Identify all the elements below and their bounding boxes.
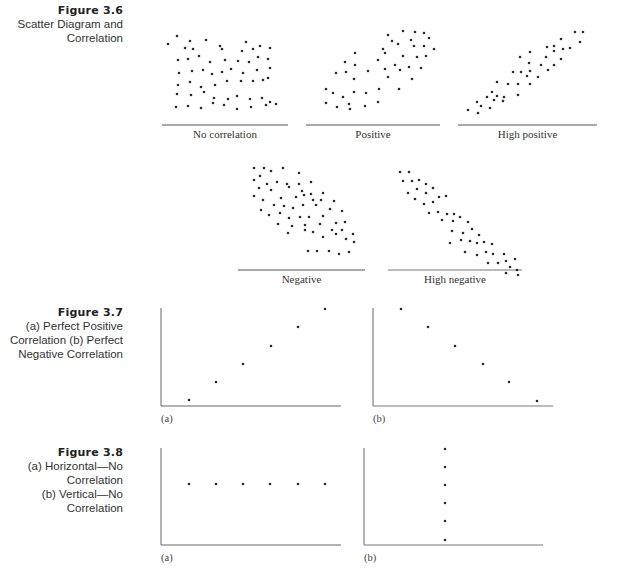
data-point [253, 167, 256, 170]
data-point [187, 105, 190, 108]
data-point [399, 171, 402, 174]
data-point [301, 190, 304, 193]
data-point [428, 212, 431, 215]
data-point [400, 308, 403, 311]
scatter-horizontal [188, 483, 327, 486]
data-point [512, 71, 515, 74]
data-point [322, 215, 325, 218]
figure-canvas [0, 0, 620, 588]
data-point [529, 70, 532, 73]
data-point [444, 520, 447, 523]
data-point [367, 70, 370, 73]
data-point [241, 50, 244, 53]
data-point [348, 251, 351, 254]
data-point [553, 45, 556, 48]
data-point [423, 203, 426, 206]
data-point [453, 213, 456, 216]
data-point [298, 172, 301, 175]
data-point [418, 179, 421, 182]
data-point [253, 179, 256, 182]
data-point [411, 180, 414, 183]
data-point [444, 539, 447, 542]
data-point [364, 105, 367, 108]
data-point [245, 41, 248, 44]
data-point [297, 326, 300, 329]
data-point [256, 69, 259, 72]
data-point [428, 37, 431, 40]
data-point [438, 196, 441, 199]
data-point [322, 236, 325, 239]
data-point [410, 39, 413, 42]
data-point [310, 193, 313, 196]
data-point [416, 56, 419, 59]
data-point [437, 211, 440, 214]
label-positive: Positive [306, 128, 440, 140]
data-point [467, 221, 470, 224]
axes-3-7b [373, 308, 553, 406]
data-point [322, 192, 325, 195]
data-point [226, 80, 229, 83]
data-point [270, 170, 273, 173]
data-point [230, 68, 233, 71]
data-point [276, 181, 279, 184]
scatter-perfect-positive [188, 308, 327, 402]
data-point [507, 83, 510, 86]
data-point [469, 240, 472, 243]
data-point [505, 260, 508, 263]
data-point [487, 262, 490, 265]
data-point [248, 61, 251, 64]
data-point [462, 232, 465, 235]
data-point [260, 209, 263, 212]
data-point [250, 106, 253, 109]
data-point [413, 45, 416, 48]
data-point [242, 72, 245, 75]
data-point [445, 195, 448, 198]
data-point [545, 56, 548, 59]
data-point [184, 47, 187, 50]
data-point [333, 200, 336, 203]
data-point [345, 71, 348, 74]
data-point [335, 233, 338, 236]
data-point [517, 94, 520, 97]
data-point [188, 399, 191, 402]
data-point [579, 41, 582, 44]
data-point [529, 83, 532, 86]
data-point [517, 83, 520, 86]
data-point [354, 52, 357, 55]
data-point [263, 167, 266, 170]
data-point [312, 231, 315, 234]
data-point [459, 216, 462, 219]
data-point [191, 70, 194, 73]
data-point [277, 223, 280, 226]
data-point [268, 214, 271, 217]
data-point [242, 483, 245, 486]
data-point [467, 109, 470, 112]
data-point [508, 381, 511, 384]
data-point [332, 92, 335, 95]
data-point [391, 40, 394, 43]
data-point [540, 64, 543, 67]
data-point [444, 448, 447, 451]
data-point [446, 213, 449, 216]
label-3-8a: (a) [161, 552, 173, 563]
data-point [348, 103, 351, 106]
axes-3-8a [161, 448, 341, 545]
label-high-positive: High positive [458, 128, 597, 140]
data-point [308, 216, 311, 219]
data-point [269, 47, 272, 50]
data-point [299, 216, 302, 219]
data-point [298, 183, 301, 186]
data-point [259, 45, 262, 48]
data-point [377, 101, 380, 104]
axes-3-7a [161, 308, 341, 406]
data-point [205, 39, 208, 42]
data-point [270, 189, 273, 192]
data-point [537, 76, 540, 79]
data-point [482, 363, 485, 366]
data-point [384, 68, 387, 71]
data-point [325, 88, 328, 91]
data-point [212, 102, 215, 105]
data-point [398, 88, 401, 91]
data-point [384, 52, 387, 55]
label-no-correlation: No correlation [162, 128, 288, 140]
